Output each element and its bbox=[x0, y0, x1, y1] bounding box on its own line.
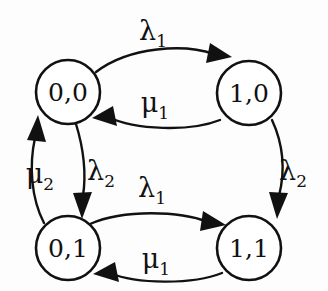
state-transition-diagram: 0,0 1,0 0,1 1,1 λ1 μ1 λ1 μ1 μ2 λ2 λ2 bbox=[0, 0, 328, 291]
edge-label-symbol: μ bbox=[26, 158, 44, 189]
arrowhead-right bbox=[200, 211, 226, 231]
edge-label-symbol: λ bbox=[138, 172, 155, 203]
node-label: 0,1 bbox=[48, 234, 88, 263]
edge-label-subscript: 2 bbox=[296, 171, 307, 191]
edge-bottom-lambda1 bbox=[90, 211, 226, 231]
node-1-1[interactable]: 1,1 bbox=[217, 216, 281, 280]
arrowhead-down bbox=[73, 192, 92, 219]
edge-label-symbol: λ bbox=[279, 155, 296, 186]
node-1-0[interactable]: 1,0 bbox=[217, 61, 281, 125]
node-label: 1,0 bbox=[229, 79, 269, 108]
edge-label-subscript: 2 bbox=[43, 174, 54, 194]
edge-label-symbol: λ bbox=[139, 15, 156, 46]
edge-label-symbol: μ bbox=[141, 87, 159, 118]
edge-label-right-lambda2: λ2 bbox=[279, 155, 307, 191]
edge-label-top-mu1: μ1 bbox=[141, 87, 169, 123]
diagram-canvas: 0,0 1,0 0,1 1,1 λ1 μ1 λ1 μ1 μ2 λ2 λ2 bbox=[0, 0, 328, 291]
edge-label-subscript: 2 bbox=[104, 171, 115, 191]
edge-label-subscript: 1 bbox=[155, 188, 166, 208]
arrowhead-down bbox=[269, 192, 288, 219]
arrowhead-left bbox=[93, 262, 119, 282]
node-0-0[interactable]: 0,0 bbox=[36, 60, 100, 124]
edge-label-subscript: 1 bbox=[159, 259, 170, 279]
edge-label-subscript: 1 bbox=[156, 31, 167, 51]
edge-label-bottom-mu1: μ1 bbox=[142, 243, 170, 279]
node-label: 1,1 bbox=[229, 234, 269, 263]
edge-bottom-lambda1-path bbox=[90, 213, 208, 224]
arrowhead-right bbox=[206, 43, 232, 63]
edge-label-left-mu2: μ2 bbox=[26, 158, 54, 194]
edge-label-left-lambda2: λ2 bbox=[87, 155, 115, 191]
edge-top-lambda1-path bbox=[96, 48, 214, 72]
node-label: 0,0 bbox=[48, 78, 88, 107]
edge-left-lambda2-path bbox=[76, 124, 84, 196]
edge-label-subscript: 1 bbox=[158, 103, 169, 123]
edge-label-bottom-lambda1: λ1 bbox=[138, 172, 166, 208]
edge-label-top-lambda1: λ1 bbox=[139, 15, 167, 51]
edge-label-symbol: μ bbox=[142, 243, 160, 274]
edge-label-symbol: λ bbox=[87, 155, 104, 186]
arrowhead-up bbox=[27, 115, 46, 142]
node-0-1[interactable]: 0,1 bbox=[36, 216, 100, 280]
